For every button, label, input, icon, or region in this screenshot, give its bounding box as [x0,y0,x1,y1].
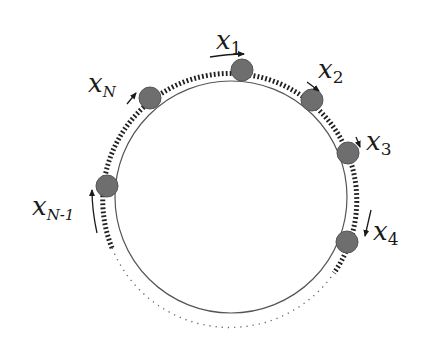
ring-diagram: x1 x2 x3 x4 xN xN-1 [0,0,425,341]
particle-x3 [337,142,359,164]
label-xN-1: xN-1 [32,191,74,224]
dotted-arc [112,248,334,327]
particle-xN-1 [96,175,118,197]
label-x2: x2 [318,54,344,87]
inner-circle [115,81,347,313]
arrow-xN-1-icon [92,190,97,233]
particle-xN [139,87,161,109]
arrow-xN-icon [127,93,136,104]
label-xN: xN [88,68,117,101]
label-x3: x3 [366,126,392,159]
label-x1: x1 [216,25,242,58]
label-x4: x4 [373,216,399,249]
diagram-canvas: x1 x2 x3 x4 xN xN-1 [0,0,425,341]
arrow-x4-icon [365,210,371,236]
particle-x1 [231,59,253,81]
particle-x4 [336,231,358,253]
particle-x2 [301,89,323,111]
